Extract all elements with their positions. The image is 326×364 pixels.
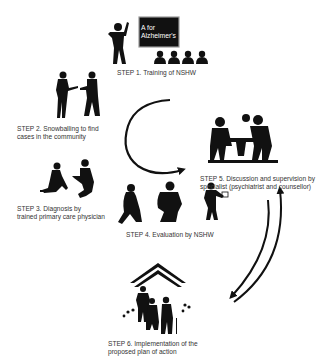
step-1-label: STEP 1. Training of NSHW [117, 69, 196, 77]
step-5-label-line1: STEP 5. Discussion and supervision by [200, 175, 315, 183]
step-6-illustration [123, 263, 191, 334]
cycle-arrow [126, 100, 182, 173]
step-5-illustration [208, 114, 278, 163]
person-head-3 [253, 115, 263, 125]
family-icon [136, 286, 177, 334]
teacher-icon [108, 22, 129, 64]
step-2-label-line1: STEP 2. Snowballing to find [17, 125, 99, 133]
step-2-illustration [56, 72, 100, 119]
table [224, 138, 258, 142]
step-1-illustration [108, 17, 208, 64]
step-3-label-line1: STEP 3. Diagnosis by [17, 205, 81, 213]
step-5-label-line2: specialist (psychiatrist and counsellor) [200, 183, 311, 191]
crouching-person-icon [118, 184, 142, 224]
person-left-icon [56, 72, 78, 119]
step-6-label-line2: proposed plan of action [108, 348, 177, 356]
step-6-label-line1: STEP 6. Implementation of the [108, 340, 198, 348]
step-2-label-line2: cases in the community [17, 133, 86, 141]
person-head-2 [242, 114, 250, 122]
person-right-icon [80, 72, 100, 117]
physician-icon [72, 159, 94, 198]
person-head-1 [215, 117, 225, 127]
down-arrow [232, 200, 269, 296]
seated-patient-icon [40, 163, 68, 194]
head-in-hands-icon [157, 182, 182, 223]
step-3-label-line2: trained primary care physician [17, 213, 105, 221]
floor-line [208, 160, 278, 163]
step-4-label: STEP 4. Evaluation by NSHW [126, 231, 214, 239]
step-3-illustration [40, 159, 94, 198]
audience-icons [154, 51, 208, 64]
blackboard-line1: A for [141, 24, 155, 32]
blackboard-line2: Alzheimer's [141, 32, 176, 40]
